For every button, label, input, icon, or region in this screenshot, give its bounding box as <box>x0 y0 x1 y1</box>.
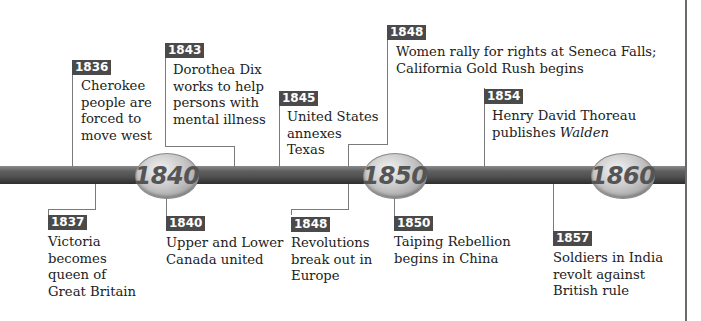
event-text-1845: United States annexes Texas <box>287 109 379 159</box>
year-tag-1840: 1840 <box>166 216 205 231</box>
year-tag-1857: 1857 <box>553 231 592 246</box>
event-line: break out in <box>291 252 372 269</box>
year-tag-1848-top: 1848 <box>387 25 426 40</box>
event-line: forced to <box>81 111 152 128</box>
decade-label: 1840 <box>135 162 200 190</box>
right-border-rule <box>685 0 687 321</box>
event-line: Canada united <box>166 252 283 269</box>
event-line: Dorothea Dix <box>173 62 266 79</box>
year-tag-1854: 1854 <box>484 89 523 104</box>
event-line: United States <box>287 109 379 126</box>
connector-1843-b <box>165 146 235 147</box>
event-text-1848-bottom: Revolutions break out in Europe <box>291 235 372 285</box>
event-text-1840: Upper and Lower Canada united <box>166 235 283 268</box>
connector-1857 <box>553 184 554 231</box>
year-tag-1845: 1845 <box>279 91 318 106</box>
event-text-1843: Dorothea Dix works to help persons with … <box>173 62 266 128</box>
event-line: Texas <box>287 142 379 159</box>
connector-1848-bottom-c <box>291 209 292 215</box>
event-line: Women rally for rights at Seneca Falls; <box>396 44 657 61</box>
connector-1848-bottom-b <box>291 209 349 210</box>
event-line: people are <box>81 95 152 112</box>
event-line: mental illness <box>173 112 266 129</box>
decade-marker-1850: 1850 <box>363 153 427 199</box>
event-text-1837: Victoria becomes queen of Great Britain <box>48 234 136 300</box>
event-text-1836: Cherokee people are forced to move west <box>81 78 152 144</box>
event-line: Europe <box>291 268 372 285</box>
year-tag-1843: 1843 <box>165 43 204 58</box>
event-line: revolt against <box>553 267 663 284</box>
event-line: becomes <box>48 251 136 268</box>
year-tag-1848-bottom: 1848 <box>291 217 330 232</box>
event-line: Soldiers in India <box>553 250 663 267</box>
connector-1836 <box>72 73 73 167</box>
connector-1837-b <box>48 209 96 210</box>
decade-marker-1860: 1860 <box>591 153 655 199</box>
decade-label: 1850 <box>363 162 428 190</box>
connector-1843-c <box>234 146 235 167</box>
event-line: queen of <box>48 267 136 284</box>
connector-1837-a <box>95 184 96 210</box>
event-text-1848-top: Women rally for rights at Seneca Falls; … <box>396 44 657 77</box>
event-line: move west <box>81 128 152 145</box>
event-text-1854: Henry David Thoreau publishes Walden <box>492 108 636 141</box>
event-line: Revolutions <box>291 235 372 252</box>
event-line: British rule <box>553 283 663 300</box>
timeline-bar <box>0 166 686 184</box>
event-text-1850: Taiping Rebellion begins in China <box>394 234 511 267</box>
decade-label: 1860 <box>591 162 656 190</box>
event-line: California Gold Rush begins <box>396 61 657 78</box>
connector-1848-top-a <box>387 28 388 145</box>
event-line: Cherokee <box>81 78 152 95</box>
event-line: persons with <box>173 95 266 112</box>
decade-marker-1840: 1840 <box>135 153 199 199</box>
event-text-1857: Soldiers in India revolt against British… <box>553 250 663 300</box>
event-line: Henry David Thoreau <box>492 108 636 125</box>
event-line: Great Britain <box>48 284 136 301</box>
event-line: Victoria <box>48 234 136 251</box>
event-line: Taiping Rebellion <box>394 234 511 251</box>
year-tag-1836: 1836 <box>72 60 111 75</box>
year-tag-1837: 1837 <box>48 215 87 230</box>
event-line: begins in China <box>394 251 511 268</box>
event-line: publishes Walden <box>492 125 636 142</box>
year-tag-1850: 1850 <box>394 216 433 231</box>
connector-1850 <box>394 198 395 216</box>
event-line-prefix: publishes <box>492 125 560 140</box>
event-line: Upper and Lower <box>166 235 283 252</box>
connector-1848-bottom-a <box>348 184 349 210</box>
book-title: Walden <box>560 125 609 140</box>
event-line: annexes <box>287 126 379 143</box>
event-line: works to help <box>173 79 266 96</box>
connector-1843-a <box>165 43 166 147</box>
connector-1840 <box>166 198 167 216</box>
timeline-diagram: 1840 1850 1860 1836 Cherokee people are … <box>0 0 701 321</box>
